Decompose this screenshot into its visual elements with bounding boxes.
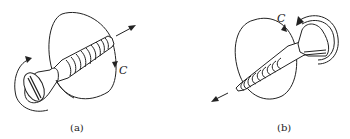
advance-arrow-a-icon xyxy=(116,25,136,36)
screw-b-icon xyxy=(236,24,329,91)
screw-a-icon xyxy=(20,36,114,104)
caption-b: (b) xyxy=(277,122,291,133)
circle-label-b: C xyxy=(277,12,286,25)
panel-b: C (b) xyxy=(211,12,338,133)
circle-label-a: C xyxy=(119,64,128,77)
advance-arrow-b-icon xyxy=(211,93,228,102)
caption-a: (a) xyxy=(70,122,84,133)
panel-a: C (a) xyxy=(15,12,136,133)
figure-canvas: C (a) xyxy=(0,0,350,139)
circle-arrow-a-icon xyxy=(112,61,118,68)
